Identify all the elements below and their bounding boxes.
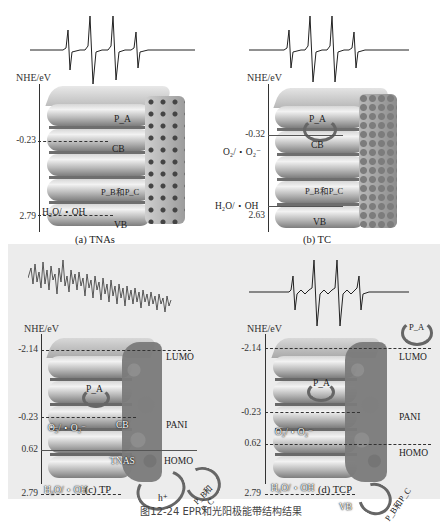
tick-d-1: -0.23 (227, 407, 261, 417)
panel-d-caption: (d) TCP (300, 484, 370, 495)
lumo-level-c (41, 350, 191, 351)
band-c-tnas: TNAS (110, 456, 135, 466)
epr-spectrum-a (30, 8, 195, 88)
axis-title-a: NHE/eV (16, 72, 51, 83)
arrow-b-pa (303, 118, 337, 142)
energy-axis-a (39, 84, 40, 232)
band-b-cb: CB (311, 140, 324, 150)
axis-title-c: NHE/eV (24, 323, 59, 334)
panel-c: NHE/eV -2.14 LUMO P_A -0.23 O₂/・O₂⁻ CB P… (0, 244, 221, 500)
panel-c-caption-bottom: (c) TP (68, 484, 128, 495)
cb-level-c (41, 417, 136, 418)
axis-title-d: NHE/eV (247, 323, 282, 334)
vb-level-a (38, 215, 113, 216)
energy-axis-c (41, 334, 42, 484)
tick-c-0: -2.14 (4, 344, 38, 354)
tick-a-0: -0.23 (2, 135, 36, 145)
band-c-lumo: LUMO (166, 352, 194, 362)
figure-caption: 图12-24 EPR和光阳极能带结构结果 (0, 503, 442, 518)
redox-c-o2: O₂/・O₂⁻ (48, 420, 86, 434)
redox-b-o2: O₂/・O₂⁻ (223, 144, 261, 158)
panel-d: NHE/eV P_A -2.14 LUMO P_A -0.23 O₂/・O₂⁻ … (221, 244, 442, 500)
axis-title-b: NHE/eV (247, 72, 282, 83)
band-d-lumo: LUMO (399, 352, 427, 362)
species-c-hplus: h⁺ (158, 492, 168, 503)
tick-b-0: -0.32 (229, 129, 265, 139)
cb-level-d (265, 412, 360, 413)
species-a-pbpc: P_B和P_C (101, 185, 139, 197)
tick-c-2: 0.62 (4, 444, 38, 454)
panel-a: NHE/eV -0.23 CB P_A P_B和P_C H₂O/・OH 2.79… (0, 0, 221, 244)
tick-c-3: 2.79 (4, 488, 38, 498)
tick-d-0: -2.14 (227, 343, 261, 353)
cb-level-a (38, 141, 108, 142)
band-c-homo: HOMO (164, 456, 193, 466)
redox-d-o2: O₂/・O₂⁻ (275, 424, 313, 438)
arrow-d-pa (307, 382, 335, 402)
energy-axis-b (268, 84, 269, 232)
species-b-pbpc: P_B和P_C (305, 184, 343, 196)
tick-d-2: 0.62 (227, 438, 261, 448)
vb-level-b (268, 206, 343, 207)
band-a-cb: CB (112, 144, 125, 154)
tick-a-1: 2.79 (2, 211, 36, 221)
band-c-pani: PANI (166, 420, 187, 430)
cb-level-b (268, 135, 343, 136)
species-d-pa-top: P_A (409, 322, 424, 332)
epr-spectrum-d (249, 254, 409, 334)
energy-axis-d (265, 334, 266, 484)
tick-c-1: -0.23 (4, 412, 38, 422)
arrow-c-pa (82, 388, 110, 408)
band-d-pani: PANI (399, 412, 420, 422)
tick-b-1: 2.63 (229, 210, 265, 220)
species-a-pa: P_A (114, 114, 131, 124)
tick-d-3: 2.79 (227, 488, 261, 498)
band-d-homo: HOMO (399, 448, 428, 458)
lumo-level-d (265, 348, 431, 349)
nanotube-array-b (273, 88, 397, 232)
homo-level-c (41, 450, 197, 451)
band-b-vb: VB (313, 217, 326, 227)
band-a-vb: VB (114, 220, 127, 230)
panel-b: NHE/eV P_A -0.32 O₂/・O₂⁻ CB P_B和P_C H₂O/… (221, 0, 442, 244)
band-c-cb: CB (116, 420, 129, 430)
epr-spectrum-c (28, 254, 183, 324)
homo-level-d (265, 444, 431, 445)
